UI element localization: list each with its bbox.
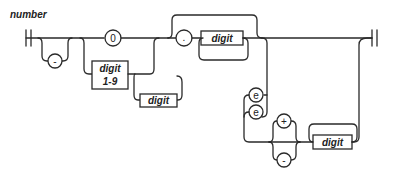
track bbox=[352, 38, 372, 142]
diagram-title: number bbox=[10, 9, 48, 20]
track bbox=[269, 121, 277, 142]
end-marker bbox=[372, 30, 377, 46]
svg-text:-: - bbox=[282, 155, 285, 166]
svg-text:digit: digit bbox=[322, 137, 344, 148]
track bbox=[128, 38, 159, 74]
minus-terminal: - bbox=[48, 54, 62, 68]
digit-fraction-nonterminal: digit bbox=[201, 31, 243, 45]
digit-integer-repeat-nonterminal: digit bbox=[140, 94, 177, 107]
digit-1-9-nonterminal: digit 1-9 bbox=[92, 61, 128, 89]
svg-text:digit: digit bbox=[211, 33, 233, 44]
svg-text:0: 0 bbox=[110, 33, 116, 44]
track bbox=[269, 142, 277, 160]
track bbox=[80, 38, 92, 74]
track bbox=[62, 38, 72, 61]
e-uppercase-terminal: e bbox=[249, 105, 263, 119]
track bbox=[262, 38, 267, 117]
e-lowercase-terminal: e bbox=[249, 88, 263, 102]
track bbox=[38, 38, 48, 61]
number-railroad-diagram: number - 0 digit 1-9 digit . bbox=[0, 0, 393, 177]
svg-text:+: + bbox=[281, 116, 287, 127]
svg-text:1-9: 1-9 bbox=[103, 76, 118, 87]
svg-text:.: . bbox=[183, 32, 186, 43]
track bbox=[244, 112, 249, 117]
dot-terminal: . bbox=[176, 30, 192, 46]
track bbox=[177, 76, 182, 100]
track bbox=[291, 142, 300, 160]
minus-exponent-terminal: - bbox=[277, 153, 291, 167]
track bbox=[291, 121, 300, 142]
plus-terminal: + bbox=[277, 114, 291, 128]
digit-exponent-nonterminal: digit bbox=[313, 135, 352, 149]
track bbox=[134, 74, 140, 100]
svg-text:e: e bbox=[253, 107, 259, 118]
svg-text:digit: digit bbox=[99, 63, 121, 74]
zero-terminal: 0 bbox=[105, 30, 121, 46]
svg-text:e: e bbox=[253, 90, 259, 101]
svg-text:-: - bbox=[53, 56, 56, 67]
svg-text:digit: digit bbox=[148, 95, 170, 106]
